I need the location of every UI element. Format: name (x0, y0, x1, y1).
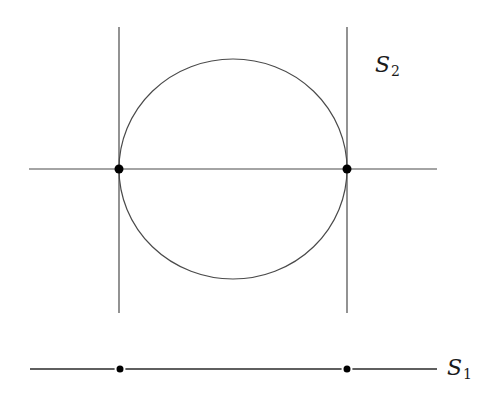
s1-label-base: S (447, 355, 462, 380)
s2-label-subscript: 2 (391, 63, 400, 79)
s2-label: S2 (375, 54, 400, 78)
right-point (343, 165, 352, 174)
lower-figure-s1 (30, 365, 437, 374)
left-point (115, 165, 124, 174)
s1-label: S1 (447, 357, 472, 381)
s2-label-base: S (375, 52, 390, 77)
diagram-canvas (0, 0, 493, 406)
s1-label-subscript: 1 (463, 366, 472, 382)
s1-right-point (343, 365, 352, 374)
s1-left-point (116, 365, 125, 374)
